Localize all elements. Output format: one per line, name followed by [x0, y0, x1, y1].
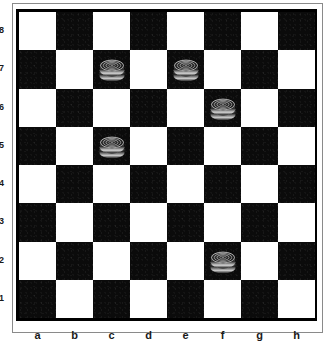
rank-label-6: 6 — [0, 103, 10, 112]
square-g8[interactable] — [241, 12, 278, 50]
square-e5[interactable] — [167, 127, 204, 165]
square-h8[interactable] — [278, 12, 315, 50]
square-a8[interactable] — [19, 12, 56, 50]
square-a6[interactable] — [19, 89, 56, 127]
square-a1[interactable] — [19, 280, 56, 318]
file-labels-row: abcdefgh — [19, 330, 315, 341]
square-h4[interactable] — [278, 165, 315, 203]
file-label-c: c — [93, 330, 130, 341]
square-g6[interactable] — [241, 89, 278, 127]
square-b4[interactable] — [56, 165, 93, 203]
square-a7[interactable] — [19, 50, 56, 88]
file-label-a: a — [19, 330, 56, 341]
square-e7[interactable] — [167, 50, 204, 88]
file-label-h: h — [278, 330, 315, 341]
square-f3[interactable] — [204, 203, 241, 241]
square-c7[interactable] — [93, 50, 130, 88]
file-label-f: f — [204, 330, 241, 341]
square-b8[interactable] — [56, 12, 93, 50]
square-c5[interactable] — [93, 127, 130, 165]
square-d5[interactable] — [130, 127, 167, 165]
square-f4[interactable] — [204, 165, 241, 203]
square-e1[interactable] — [167, 280, 204, 318]
square-h7[interactable] — [278, 50, 315, 88]
square-b5[interactable] — [56, 127, 93, 165]
square-g4[interactable] — [241, 165, 278, 203]
square-g3[interactable] — [241, 203, 278, 241]
square-f8[interactable] — [204, 12, 241, 50]
square-h2[interactable] — [278, 242, 315, 280]
square-h5[interactable] — [278, 127, 315, 165]
square-c6[interactable] — [93, 89, 130, 127]
square-d7[interactable] — [130, 50, 167, 88]
rank-label-2: 2 — [0, 256, 10, 265]
square-g7[interactable] — [241, 50, 278, 88]
square-d3[interactable] — [130, 203, 167, 241]
rank-label-8: 8 — [0, 26, 10, 35]
rank-label-1: 1 — [0, 294, 10, 303]
square-g1[interactable] — [241, 280, 278, 318]
square-a4[interactable] — [19, 165, 56, 203]
square-h6[interactable] — [278, 89, 315, 127]
file-label-e: e — [167, 330, 204, 341]
square-e2[interactable] — [167, 242, 204, 280]
square-b6[interactable] — [56, 89, 93, 127]
square-h3[interactable] — [278, 203, 315, 241]
square-d2[interactable] — [130, 242, 167, 280]
square-e6[interactable] — [167, 89, 204, 127]
square-a2[interactable] — [19, 242, 56, 280]
square-d6[interactable] — [130, 89, 167, 127]
rank-label-3: 3 — [0, 217, 10, 226]
square-d4[interactable] — [130, 165, 167, 203]
square-b1[interactable] — [56, 280, 93, 318]
square-g2[interactable] — [241, 242, 278, 280]
square-f1[interactable] — [204, 280, 241, 318]
file-label-g: g — [241, 330, 278, 341]
square-d8[interactable] — [130, 12, 167, 50]
square-c1[interactable] — [93, 280, 130, 318]
square-b3[interactable] — [56, 203, 93, 241]
square-e8[interactable] — [167, 12, 204, 50]
checkers-board[interactable] — [19, 12, 315, 318]
black-king-e7[interactable] — [171, 54, 201, 84]
square-f2[interactable] — [204, 242, 241, 280]
black-king-c5[interactable] — [97, 131, 127, 161]
square-h1[interactable] — [278, 280, 315, 318]
black-king-f2[interactable] — [208, 246, 238, 276]
square-c4[interactable] — [93, 165, 130, 203]
square-c2[interactable] — [93, 242, 130, 280]
square-f6[interactable] — [204, 89, 241, 127]
square-g5[interactable] — [241, 127, 278, 165]
rank-label-5: 5 — [0, 141, 10, 150]
square-e3[interactable] — [167, 203, 204, 241]
black-king-f6[interactable] — [208, 93, 238, 123]
rank-label-4: 4 — [0, 179, 10, 188]
square-c3[interactable] — [93, 203, 130, 241]
square-e4[interactable] — [167, 165, 204, 203]
rank-label-7: 7 — [0, 64, 10, 73]
square-f5[interactable] — [204, 127, 241, 165]
black-king-c7[interactable] — [97, 54, 127, 84]
square-a5[interactable] — [19, 127, 56, 165]
square-b7[interactable] — [56, 50, 93, 88]
square-a3[interactable] — [19, 203, 56, 241]
file-label-b: b — [56, 330, 93, 341]
square-b2[interactable] — [56, 242, 93, 280]
square-c8[interactable] — [93, 12, 130, 50]
square-f7[interactable] — [204, 50, 241, 88]
square-d1[interactable] — [130, 280, 167, 318]
file-label-d: d — [130, 330, 167, 341]
